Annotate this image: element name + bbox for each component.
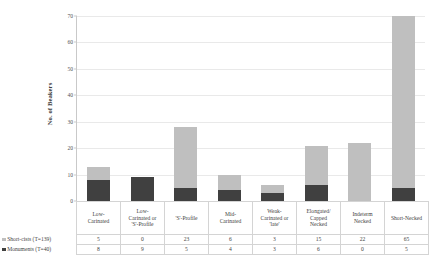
bar-segment [218, 175, 241, 191]
category-header-cell: Short-Necked [385, 202, 429, 235]
bar-segment [392, 188, 415, 201]
value-cell: 4 [209, 245, 253, 255]
category-header-cell: IndetermNecked [341, 202, 385, 235]
bar-stack[interactable] [305, 146, 328, 201]
bar-segment [87, 180, 110, 201]
category-header-cell: Elongated/CappedNecked [297, 202, 341, 235]
value-cell: 8 [77, 245, 121, 255]
value-cell: 5 [385, 245, 429, 255]
plot-area: 706050403020100 [76, 16, 425, 201]
table-row: Short-cists (T=139)502363152265 [0, 235, 429, 245]
bar-segment [174, 188, 197, 201]
category-header-cell: Low-Carinated or'S'-Profile [121, 202, 165, 235]
value-cell: 0 [341, 245, 385, 255]
bar-segment [305, 146, 328, 186]
y-axis-title: No. of Beakers [46, 56, 60, 152]
table-row: Low-CarinatedLow-Carinated or'S'-Profile… [0, 202, 429, 235]
bar-segment [392, 16, 415, 188]
bar-segment [174, 127, 197, 188]
bar-stack[interactable] [392, 16, 415, 201]
bar-stack[interactable] [131, 177, 154, 201]
category-header-cell: Weak-Carinated or'late' [253, 202, 297, 235]
bar-group [208, 16, 252, 201]
legend-label: Short-cists (T=139) [7, 236, 51, 242]
bar-segment [87, 167, 110, 180]
bar-stack[interactable] [218, 175, 241, 201]
value-cell: 5 [77, 235, 121, 245]
y-axis-tick-label: 40 [67, 92, 73, 98]
legend-swatch-icon [2, 238, 6, 242]
bar-group [382, 16, 426, 201]
value-cell: 3 [253, 245, 297, 255]
bar-stack[interactable] [261, 185, 284, 201]
value-cell: 5 [165, 245, 209, 255]
bar-segment [218, 190, 241, 201]
value-cell: 22 [341, 235, 385, 245]
y-axis-tick-label: 10 [67, 172, 73, 178]
value-cell: 9 [121, 245, 165, 255]
y-axis-tick-label: 20 [67, 145, 73, 151]
y-axis-tick-label: 30 [67, 119, 73, 125]
bar-segment [305, 185, 328, 201]
bar-group [295, 16, 339, 201]
category-header-cell: 'S'-Profile [165, 202, 209, 235]
y-axis-tick-label: 60 [67, 39, 73, 45]
bar-group [77, 16, 121, 201]
bar-stack[interactable] [87, 167, 110, 201]
legend-label: Monuments (T=40) [7, 246, 51, 252]
bar-group [338, 16, 382, 201]
bar-segment [261, 193, 284, 201]
bar-segment [261, 185, 284, 193]
table-row: Monuments (T=40)89543605 [0, 245, 429, 255]
value-cell: 6 [209, 235, 253, 245]
y-axis-tick-label: 70 [67, 13, 73, 19]
legend-swatch-icon [2, 248, 6, 252]
bar-series-container [77, 16, 425, 201]
category-header-cell: Mid-Carinated [209, 202, 253, 235]
bar-stack[interactable] [348, 143, 371, 201]
legend-item[interactable]: Short-cists (T=139) [0, 235, 77, 245]
category-header-cell: Low-Carinated [77, 202, 121, 235]
value-cell: 23 [165, 235, 209, 245]
bar-group [251, 16, 295, 201]
y-axis-tick-label: 50 [67, 66, 73, 72]
bar-stack[interactable] [174, 127, 197, 201]
bar-segment [131, 177, 154, 201]
data-table: Low-CarinatedLow-Carinated or'S'-Profile… [0, 201, 429, 255]
bar-group [164, 16, 208, 201]
value-cell: 6 [297, 245, 341, 255]
legend-item[interactable]: Monuments (T=40) [0, 245, 77, 255]
value-cell: 0 [121, 235, 165, 245]
table-corner-cell [0, 202, 77, 235]
bar-segment [348, 143, 371, 201]
value-cell: 65 [385, 235, 429, 245]
value-cell: 3 [253, 235, 297, 245]
chart-root: No. of Beakers 706050403020100 Low-Carin… [0, 0, 429, 277]
bar-group [121, 16, 165, 201]
value-cell: 15 [297, 235, 341, 245]
